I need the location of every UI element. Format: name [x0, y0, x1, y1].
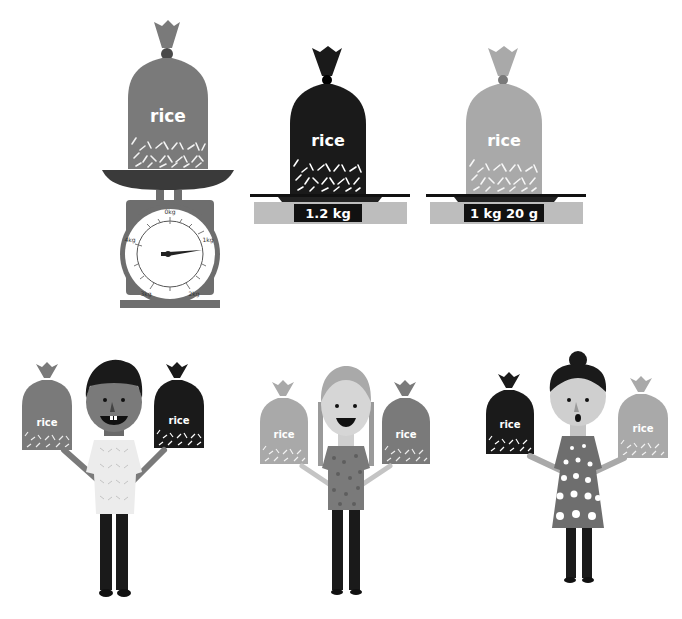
bag-label: rice [632, 423, 653, 434]
rice-bag-medium: rice [128, 20, 208, 169]
bag-label: rice [168, 415, 189, 426]
rice-bag-light: rice [618, 376, 668, 458]
rice-bag-light: rice [260, 380, 308, 464]
dial-label-1kg: 1kg [202, 236, 213, 244]
bag-label: rice [150, 106, 186, 126]
dial-label-2kg: 2kg [188, 290, 199, 298]
person-boy: rice rice [14, 352, 214, 602]
bag-label: rice [273, 429, 294, 440]
rice-bag-medium: rice [382, 380, 430, 464]
dial-scale: rice 0kg 1kg 2kg [98, 14, 238, 314]
boy-head [86, 360, 142, 436]
person-girl-braids: rice rice [252, 362, 442, 600]
weight-display: 1.2 kg [305, 206, 351, 221]
girl-top [322, 446, 370, 510]
rice-bag-dark: rice [290, 46, 366, 194]
bag-label: rice [36, 417, 57, 428]
bag-label: rice [499, 419, 520, 430]
girl-head [321, 366, 371, 446]
bag-label: rice [487, 131, 521, 150]
bag-label: rice [395, 429, 416, 440]
dial-label-4kg: 4kg [124, 236, 135, 244]
weight-display: 1 kg 20 g [470, 206, 538, 221]
rice-bag-dark: rice [154, 362, 204, 448]
rice-bag-medium: rice [22, 362, 72, 450]
digital-scale-2: rice 1 kg 20 g [424, 46, 589, 228]
dial-label-3kg: 3kg [140, 290, 151, 298]
digital-scale-1: rice 1.2 kg [248, 46, 413, 228]
rice-bag-light: rice [466, 46, 542, 194]
rice-bag-dark: rice [486, 372, 534, 454]
woman-head [550, 351, 606, 436]
boy-shirt [86, 440, 142, 514]
bag-label: rice [311, 131, 345, 150]
person-woman-bun: rice rice [480, 348, 676, 588]
dial-label-0kg: 0kg [164, 208, 175, 216]
